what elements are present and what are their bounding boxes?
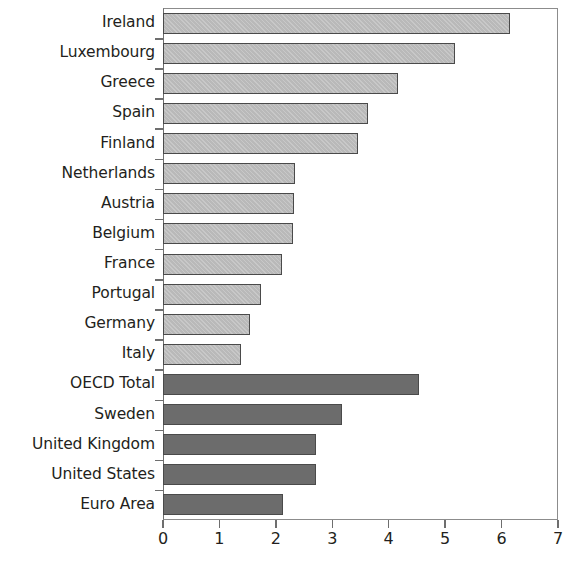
- value-axis-tick-label: 6: [482, 531, 522, 547]
- category-label: Luxembourg: [0, 45, 155, 61]
- bar-germany: [163, 314, 250, 335]
- category-label: Finland: [0, 136, 155, 152]
- category-label: United Kingdom: [0, 437, 155, 453]
- bar-oecd-total: [163, 374, 419, 395]
- category-label: Greece: [0, 75, 155, 91]
- bar-spain: [163, 103, 368, 124]
- bar-finland: [163, 133, 358, 154]
- bar-austria: [163, 193, 294, 214]
- bar-sweden: [163, 404, 342, 425]
- value-axis-tick: [162, 520, 164, 528]
- value-axis-tick: [332, 520, 334, 528]
- value-axis-tick-label: 1: [199, 531, 239, 547]
- bar-euro-area: [163, 494, 283, 515]
- value-axis-tick-label: 3: [312, 531, 352, 547]
- bar-portugal: [163, 284, 261, 305]
- category-label: Austria: [0, 196, 155, 212]
- category-label: Belgium: [0, 226, 155, 242]
- bar-chart: IrelandLuxembourgGreeceSpainFinlandNethe…: [0, 0, 580, 585]
- value-axis-tick-label: 0: [143, 531, 183, 547]
- category-label: Italy: [0, 346, 155, 362]
- value-axis-tick: [444, 520, 446, 528]
- value-axis-tick: [388, 520, 390, 528]
- value-axis-tick: [219, 520, 221, 528]
- category-label: Spain: [0, 105, 155, 121]
- value-axis-tick-label: 7: [538, 531, 578, 547]
- value-axis-tick: [557, 520, 559, 528]
- value-axis-tick: [275, 520, 277, 528]
- value-axis-tick-label: 2: [256, 531, 296, 547]
- bar-italy: [163, 344, 241, 365]
- bar-netherlands: [163, 163, 295, 184]
- bar-france: [163, 254, 282, 275]
- bar-united-states: [163, 464, 316, 485]
- category-label: Sweden: [0, 407, 155, 423]
- bar-greece: [163, 73, 398, 94]
- value-axis: 01234567: [163, 520, 558, 580]
- category-label: France: [0, 256, 155, 272]
- bar-united-kingdom: [163, 434, 316, 455]
- category-label: Ireland: [0, 15, 155, 31]
- value-axis-tick: [501, 520, 503, 528]
- value-axis-tick-label: 5: [425, 531, 465, 547]
- category-axis-labels: IrelandLuxembourgGreeceSpainFinlandNethe…: [0, 8, 155, 520]
- category-label: Portugal: [0, 286, 155, 302]
- category-label: Netherlands: [0, 166, 155, 182]
- value-axis-tick-label: 4: [369, 531, 409, 547]
- category-label: United States: [0, 467, 155, 483]
- category-label: Germany: [0, 316, 155, 332]
- bar-belgium: [163, 223, 293, 244]
- bars-layer: [163, 8, 558, 520]
- bar-ireland: [163, 13, 510, 34]
- bar-luxembourg: [163, 43, 455, 64]
- category-label: OECD Total: [0, 376, 155, 392]
- category-label: Euro Area: [0, 497, 155, 513]
